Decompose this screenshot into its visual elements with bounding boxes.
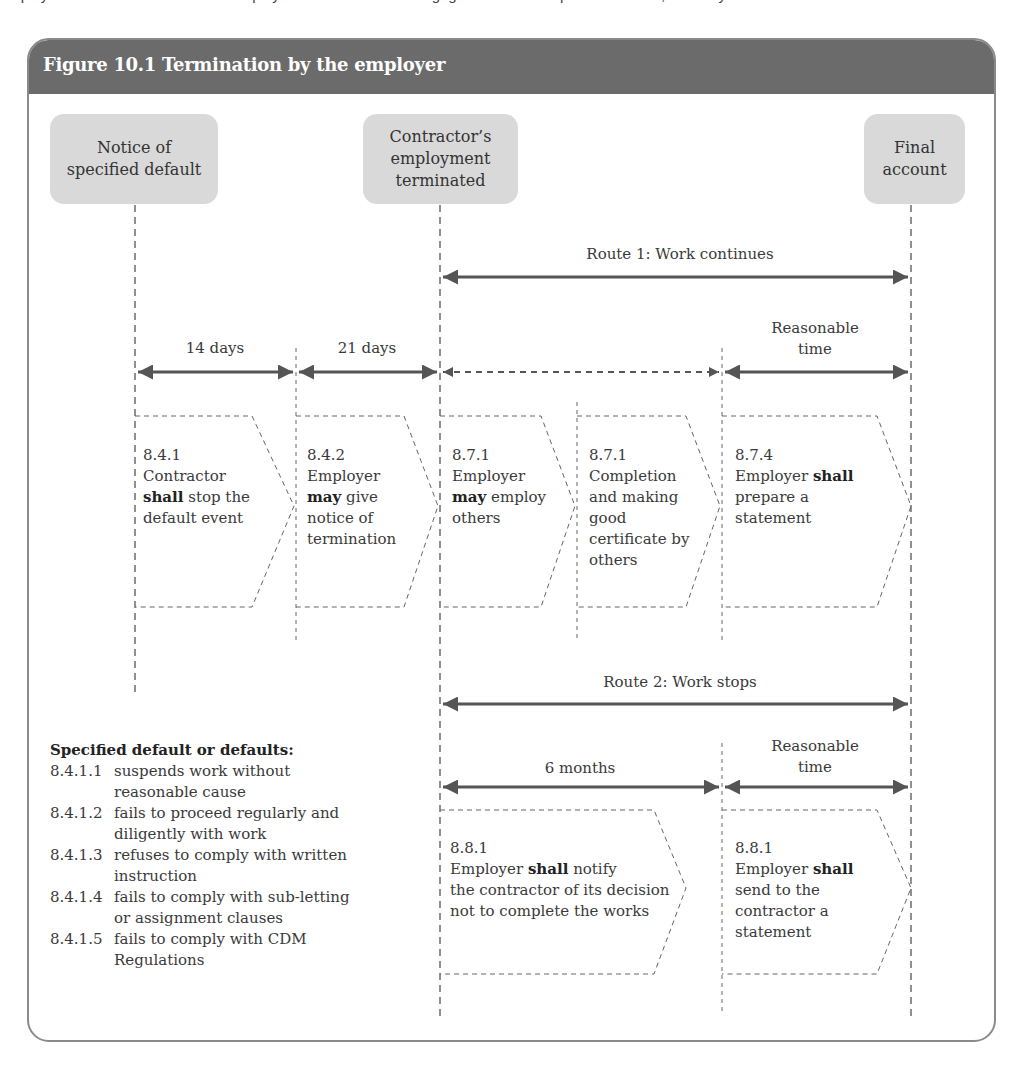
default-item: 8.4.1.5fails to comply with CDM Regulati…: [50, 929, 364, 971]
node-final-account: Final account: [864, 114, 965, 204]
route2-label: Route 2: Work stops: [540, 672, 820, 693]
step-8-7-1-completion: 8.7.1 Completion and making good certifi…: [589, 445, 699, 571]
default-item: 8.4.1.2fails to proceed regularly and di…: [50, 803, 364, 845]
period-21-days: 21 days: [300, 338, 434, 359]
node-notice-of-default: Notice of specified default: [50, 114, 218, 204]
period-14-days: 14 days: [150, 338, 280, 359]
route1-label: Route 1: Work continues: [540, 244, 820, 265]
step-8-8-1-statement: 8.8.1 Employer shall send to the contrac…: [735, 838, 880, 943]
period-6-months: 6 months: [480, 758, 680, 779]
default-item: 8.4.1.4fails to comply with sub-letting …: [50, 887, 364, 929]
step-8-8-1-notify: 8.8.1 Employer shall notify the contract…: [450, 838, 685, 922]
default-item: 8.4.1.3refuses to comply with written in…: [50, 845, 364, 887]
step-8-7-4: 8.7.4 Employer shall prepare a statement: [735, 445, 880, 529]
step-8-4-2: 8.4.2 Employer may give notice of termin…: [307, 445, 417, 550]
step-8-4-1: 8.4.1 Contractor shall stop the default …: [143, 445, 268, 529]
period-reasonable-time-1: Reasonable time: [740, 318, 890, 360]
default-item: 8.4.1.1suspends work without reasonable …: [50, 761, 364, 803]
period-reasonable-time-2: Reasonable time: [740, 736, 890, 778]
specified-defaults-list: Specified default or defaults: 8.4.1.1su…: [50, 740, 364, 971]
step-8-7-1-employ: 8.7.1 Employer may employ others: [452, 445, 562, 529]
node-employment-terminated: Contractor’s employment terminated: [363, 114, 518, 204]
defaults-title: Specified default or defaults:: [50, 740, 364, 761]
